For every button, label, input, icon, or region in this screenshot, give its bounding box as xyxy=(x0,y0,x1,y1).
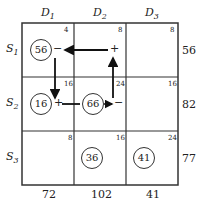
allocation: 56 xyxy=(30,39,52,61)
cost: 8 xyxy=(170,26,174,34)
allocation: 66 xyxy=(82,93,104,115)
sign: + xyxy=(54,96,63,109)
cost: 16 xyxy=(64,80,73,88)
sign: + xyxy=(110,42,119,55)
cost: 4 xyxy=(64,26,68,34)
col-header-d2: D2 xyxy=(93,6,107,21)
cost: 24 xyxy=(168,134,177,142)
allocation: 36 xyxy=(81,147,103,169)
col-header-d3: D3 xyxy=(145,6,159,21)
demand: 41 xyxy=(146,188,160,201)
row-header-s1: S1 xyxy=(6,42,19,57)
sign: − xyxy=(114,96,123,109)
cost: 16 xyxy=(116,134,125,142)
sign: − xyxy=(53,42,62,55)
cost: 8 xyxy=(68,134,72,142)
supply: 56 xyxy=(182,44,196,57)
demand: 72 xyxy=(42,188,56,201)
allocation: 41 xyxy=(133,147,155,169)
row-header-s2: S2 xyxy=(6,96,19,111)
supply: 82 xyxy=(182,98,196,111)
cost: 16 xyxy=(168,80,177,88)
demand: 102 xyxy=(91,188,112,201)
allocation: 16 xyxy=(30,93,52,115)
cost: 24 xyxy=(116,80,125,88)
supply: 77 xyxy=(182,152,196,165)
col-header-d1: D1 xyxy=(41,6,55,21)
cost: 8 xyxy=(118,26,122,34)
row-header-s3: S3 xyxy=(6,150,19,165)
